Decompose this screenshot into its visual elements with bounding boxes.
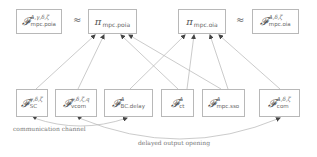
subscript: mpc.poia xyxy=(31,22,56,28)
symbol: 𝓕 xyxy=(112,97,120,110)
symbol: 𝓕 xyxy=(260,15,268,28)
box-f-mpc-oia: 𝓕 Δ,δ,ζ mpc.oia xyxy=(252,9,299,34)
composition-diagram: 𝓕 Δ,γ,δ,ζ mpc.poia ≈ π mpc.poia π mpc.oi… xyxy=(0,0,317,157)
approx-symbol-right: ≈ xyxy=(236,14,244,25)
symbol: 𝓕 xyxy=(268,97,276,110)
subscript: com xyxy=(277,104,291,110)
edge-sc-to-poia xyxy=(36,35,95,89)
subscript: SC xyxy=(30,104,43,110)
symbol: π xyxy=(186,16,193,27)
box-f-bc-delay: 𝓕 Δ BC.delay xyxy=(104,89,153,117)
subscript: mpc.sso xyxy=(216,104,239,110)
symbol: 𝓕 xyxy=(63,97,71,110)
symbol: 𝓕 xyxy=(21,97,29,110)
box-f-vcom: 𝓕 γ,δ,ζ,q vcom xyxy=(55,89,97,117)
box-f-mpc-sso: 𝓕 Δ mpc.sso xyxy=(202,89,245,117)
box-pi-mpc-oia: π mpc.oia xyxy=(178,9,226,34)
box-pi-mpc-poia: π mpc.poia xyxy=(88,9,137,34)
edge-vcom-to-poia xyxy=(78,35,104,89)
edge-com-to-oia xyxy=(219,35,280,89)
subscript: BC.delay xyxy=(121,104,145,110)
edge-ct-to-oia xyxy=(187,35,194,89)
approx-symbol-left: ≈ xyxy=(73,14,81,25)
box-f-com: 𝓕 Δ,δ,ζ com xyxy=(259,89,300,117)
edge-sso-to-poia xyxy=(129,35,221,89)
symbol: π xyxy=(95,16,102,27)
label-communication-channel: communication channel xyxy=(13,125,86,132)
subscript: mpc.oia xyxy=(269,22,291,28)
curve-delayed-output-opening xyxy=(79,118,280,139)
symbol: 𝓕 xyxy=(208,97,216,110)
subscript: ct xyxy=(179,104,184,110)
label-delayed-output-opening: delayed output opening xyxy=(138,139,210,146)
edge-ct-to-poia xyxy=(121,35,178,89)
symbol: 𝓕 xyxy=(171,97,179,110)
subscript: vcom xyxy=(71,104,89,110)
subscript: mpc.oia xyxy=(194,21,218,28)
symbol: 𝓕 xyxy=(22,15,30,28)
edge-bcdelay-to-oia xyxy=(130,35,185,89)
edge-sso-to-oia xyxy=(210,35,228,89)
subscript: mpc.poia xyxy=(102,21,130,28)
box-f-ct: 𝓕 Δ ct xyxy=(161,89,194,117)
box-f-sc: 𝓕 γ,δ,ζ SC xyxy=(16,89,48,117)
box-f-mpc-poia: 𝓕 Δ,γ,δ,ζ mpc.poia xyxy=(16,9,62,34)
